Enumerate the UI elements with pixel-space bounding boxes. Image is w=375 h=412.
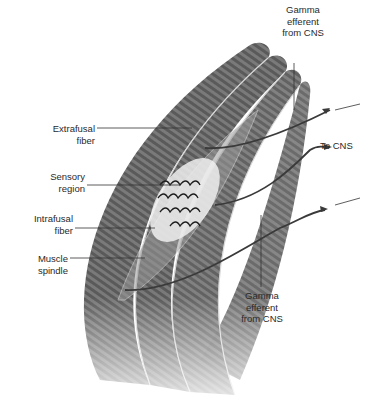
label-extrafusal-fiber: Extrafusal fiber	[30, 123, 95, 146]
label-intrafusal-fiber: Intrafusal fiber	[5, 213, 73, 236]
label-to-cns: To CNS	[320, 140, 353, 152]
label-muscle-spindle: Muscle spindle	[5, 253, 68, 276]
label-gamma-efferent-bottom: Gamma efferent from CNS	[236, 290, 288, 325]
label-sensory-region: Sensory region	[15, 171, 85, 194]
label-gamma-efferent-top: Gamma efferent from CNS	[272, 4, 334, 39]
muscle-illustration	[0, 0, 375, 412]
muscle-spindle-diagram: Gamma efferent from CNS Extrafusal fiber…	[0, 0, 375, 412]
